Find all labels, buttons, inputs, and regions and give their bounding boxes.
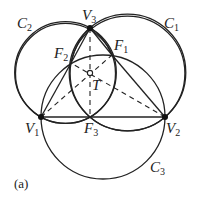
dashed-v2-f2 bbox=[71, 63, 165, 117]
label-f3: F3 bbox=[83, 120, 98, 138]
label-c2: C2 bbox=[17, 15, 32, 33]
point-t bbox=[87, 70, 92, 75]
torricelli-diagram: C2 C1 C3 V3 V1 V2 F1 F2 F3 T (a) bbox=[0, 0, 199, 200]
figure-caption: (a) bbox=[14, 176, 28, 191]
point-v1 bbox=[38, 114, 44, 120]
label-v1: V1 bbox=[25, 120, 39, 138]
edge-f2-v3 bbox=[71, 28, 90, 63]
point-v3 bbox=[87, 25, 93, 31]
label-v2: V2 bbox=[166, 120, 180, 138]
diagram-canvas: C2 C1 C3 V3 V1 V2 F1 F2 F3 T (a) bbox=[0, 0, 199, 200]
edge-v1-f2 bbox=[41, 63, 71, 117]
label-v3: V3 bbox=[82, 7, 96, 25]
label-c3: C3 bbox=[150, 159, 165, 177]
label-f2: F2 bbox=[53, 45, 68, 63]
edge-v3-f1 bbox=[90, 28, 112, 55]
label-f1: F1 bbox=[113, 37, 128, 55]
label-c1: C1 bbox=[164, 15, 179, 33]
